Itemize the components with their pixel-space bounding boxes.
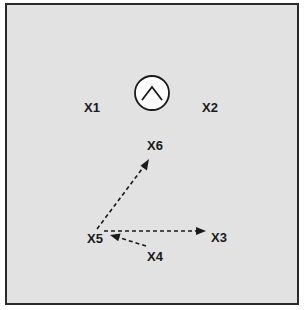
- edge-x5-to-x6: [97, 159, 149, 229]
- node-x2-label: X2: [202, 100, 218, 115]
- node-x1-label: X1: [84, 100, 100, 115]
- edge-x4-to-x5: [110, 234, 146, 247]
- diagram-canvas: X1 X2 X3 X4 X5 X6: [0, 0, 304, 310]
- node-x6-label: X6: [147, 138, 163, 153]
- node-x4-label: X4: [147, 249, 164, 264]
- caret-up-in-circle-icon: [135, 76, 169, 110]
- node-x5-label: X5: [87, 231, 103, 246]
- node-x3-label: X3: [211, 230, 227, 245]
